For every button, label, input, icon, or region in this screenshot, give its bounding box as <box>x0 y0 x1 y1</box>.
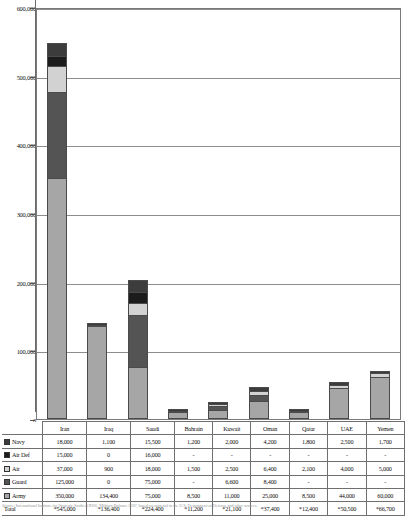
bar-segment-army <box>169 412 187 418</box>
table-cell: 2,500 <box>212 462 250 475</box>
bar-segment-army <box>250 401 268 418</box>
table-cell: 4,000 <box>328 462 366 475</box>
bar-group-iran <box>37 9 77 419</box>
stacked-bar <box>47 43 67 419</box>
table-cell: 350,000 <box>43 488 87 501</box>
bar-segment-army <box>330 388 348 418</box>
stacked-bar <box>168 409 188 419</box>
table-row-guard: Guard125,000075,000-6,6008,400--- <box>2 475 405 488</box>
table-cell: 18,000 <box>131 462 175 475</box>
row-label-navy: Navy <box>2 435 43 448</box>
table-cell: 2,500 <box>328 435 366 448</box>
table-cell: 18,000 <box>43 435 87 448</box>
source-footnote: Source: International Institute for Stra… <box>2 503 405 511</box>
table-cell: 2,100 <box>289 462 327 475</box>
bar-segment-army <box>88 326 106 418</box>
bar-group-yemen <box>360 9 400 419</box>
table-cell: 8,500 <box>175 488 213 501</box>
column-header-kuwait: Kuwait <box>212 422 250 435</box>
bar-segment-army <box>290 412 308 418</box>
stacked-bar <box>249 387 269 419</box>
table-cell: 75,000 <box>131 488 175 501</box>
plot-area <box>36 8 401 420</box>
row-label-guard: Guard <box>2 475 43 488</box>
table-cell: 6,600 <box>212 475 250 488</box>
legend-label: Air <box>12 465 20 472</box>
legend-label: Army <box>12 492 26 499</box>
row-label-air-def: Air Def <box>2 448 43 461</box>
table-cell: 44,000 <box>328 488 366 501</box>
column-header-bahrain: Bahrain <box>175 422 213 435</box>
table-cell: 1,100 <box>87 435 131 448</box>
row-label-army: Army <box>2 488 43 501</box>
legend-swatch-army <box>4 493 10 499</box>
bar-segment-navy <box>129 281 147 292</box>
table-cell: 15,500 <box>131 435 175 448</box>
legend-swatch-air <box>4 466 10 472</box>
bar-group-qatar <box>279 9 319 419</box>
table-corner-cell <box>2 422 43 435</box>
legend-swatch-navy <box>4 439 10 445</box>
table-cell: 1,700 <box>366 435 404 448</box>
bar-segment-army <box>48 178 66 418</box>
y-axis: 0100,000200,000300,000400,000500,000600,… <box>0 8 36 420</box>
table-cell: - <box>328 448 366 461</box>
bar-segment-air-def <box>48 56 66 66</box>
table-row-air: Air37,00090018,0001,5002,5006,4002,1004,… <box>2 462 405 475</box>
table-cell: 0 <box>87 475 131 488</box>
column-header-iran: Iran <box>43 422 87 435</box>
table-head: IranIraqSaudiBahrainKuwaitOmanQatarUAEYe… <box>2 422 405 435</box>
table-cell: - <box>289 448 327 461</box>
table-cell: 6,400 <box>251 462 289 475</box>
bar-group-oman <box>239 9 279 419</box>
table-cell: - <box>175 475 213 488</box>
row-label-air: Air <box>2 462 43 475</box>
legend-label: Guard <box>12 478 26 485</box>
column-header-yemen: Yemen <box>366 422 404 435</box>
bar-group-bahrain <box>158 9 198 419</box>
bar-segment-guard <box>129 315 147 367</box>
table-cell: 4,200 <box>251 435 289 448</box>
table-row-air-def: Air Def15,000016,000------ <box>2 448 405 461</box>
table-cell: - <box>175 448 213 461</box>
table-cell: 16,000 <box>131 448 175 461</box>
column-header-saudi: Saudi <box>131 422 175 435</box>
table-cell: 11,000 <box>212 488 250 501</box>
table-cell: 1,500 <box>175 462 213 475</box>
bar-group-saudi <box>118 9 158 419</box>
stacked-bar <box>208 402 228 419</box>
table-cell: - <box>328 475 366 488</box>
table-cell: 15,000 <box>43 448 87 461</box>
table-cell: 25,000 <box>251 488 289 501</box>
stacked-bar <box>289 409 309 420</box>
table-header-row: IranIraqSaudiBahrainKuwaitOmanQatarUAEYe… <box>2 422 405 435</box>
column-header-iraq: Iraq <box>87 422 131 435</box>
legend-label: Air Def <box>12 451 30 458</box>
table-cell: 0 <box>87 448 131 461</box>
legend-swatch-air-def <box>4 452 10 458</box>
data-table: IranIraqSaudiBahrainKuwaitOmanQatarUAEYe… <box>2 421 405 516</box>
table-cell: 37,000 <box>43 462 87 475</box>
table-cell: - <box>366 475 404 488</box>
column-header-oman: Oman <box>251 422 289 435</box>
legend-swatch-guard <box>4 479 10 485</box>
table-cell: - <box>251 448 289 461</box>
table-cell: 60,000 <box>366 488 404 501</box>
stacked-bar <box>87 323 107 419</box>
stacked-bar <box>370 371 390 419</box>
bar-series-container <box>37 9 400 419</box>
bar-segment-air <box>129 303 147 315</box>
stacked-bar <box>329 382 349 419</box>
table-row-navy: Navy18,0001,10015,5001,2002,0004,2001,80… <box>2 435 405 448</box>
bar-group-iraq <box>77 9 117 419</box>
bar-group-kuwait <box>198 9 238 419</box>
column-header-qatar: Qatar <box>289 422 327 435</box>
bar-group-uae <box>319 9 359 419</box>
bar-segment-air <box>48 66 66 91</box>
table-cell: 134,400 <box>87 488 131 501</box>
stacked-bar <box>128 280 148 419</box>
column-header-uae: UAE <box>328 422 366 435</box>
bar-segment-army <box>371 377 389 418</box>
table-cell: 8,500 <box>289 488 327 501</box>
